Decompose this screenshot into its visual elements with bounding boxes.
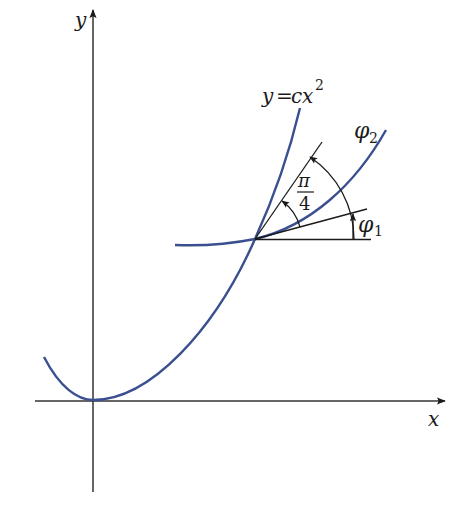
phi2-label: φ 2 — [354, 118, 378, 146]
pi-over-4-label: π 4 — [297, 170, 314, 214]
parabola-label: y = c x 2 — [261, 77, 324, 108]
svg-text:y: y — [261, 84, 274, 108]
x-axis-label: x — [428, 407, 439, 431]
svg-text:φ: φ — [354, 118, 370, 143]
phi2-curve — [175, 130, 386, 245]
svg-text:c: c — [291, 84, 302, 108]
tangent-line-phi1-plus-pi4 — [255, 142, 322, 239]
svg-text:2: 2 — [369, 130, 378, 146]
svg-text:4: 4 — [299, 193, 310, 214]
svg-text:π: π — [297, 170, 311, 191]
phi1-label: φ 1 — [358, 212, 383, 239]
svg-text:x: x — [302, 84, 313, 108]
svg-text:φ: φ — [358, 212, 374, 237]
parabola-curve — [44, 108, 300, 400]
svg-text:2: 2 — [315, 77, 324, 93]
diagram-canvas: y x y = c x 2 φ 2 φ 1 π 4 — [0, 0, 457, 513]
svg-text:1: 1 — [374, 223, 383, 239]
y-axis-label: y — [74, 8, 87, 32]
